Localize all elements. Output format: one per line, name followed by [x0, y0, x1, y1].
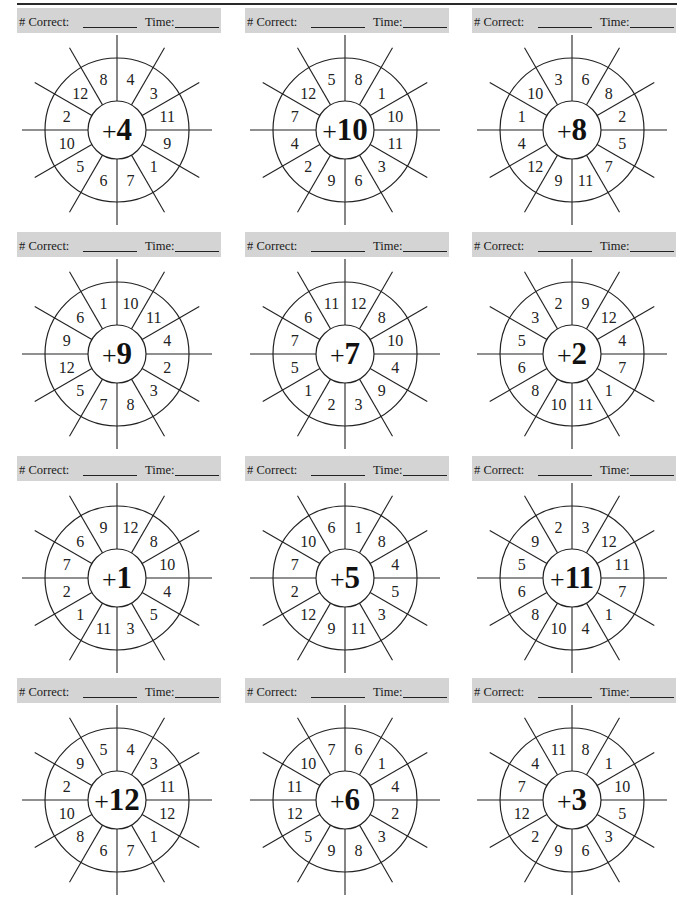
spoke-line	[360, 155, 393, 212]
wheel-number: 5	[150, 606, 158, 623]
addend-label: +11	[550, 560, 594, 595]
correct-blank[interactable]	[311, 251, 365, 252]
wheel-number: 6	[581, 842, 589, 859]
correct-blank[interactable]	[538, 27, 592, 28]
spoke-line	[132, 825, 165, 882]
wheel-number: 4	[163, 583, 171, 600]
correct-blank[interactable]	[538, 697, 592, 698]
wheel-number: 10	[614, 778, 630, 795]
wheel-number: 9	[555, 172, 563, 189]
plus-sign: +	[550, 565, 565, 594]
score-bar: # Correct: Time:	[472, 678, 676, 703]
spoke-line	[360, 496, 393, 553]
wheel-number: 3	[150, 382, 158, 399]
time-blank[interactable]	[403, 27, 447, 28]
wheel-number: 10	[122, 295, 138, 312]
wheel-number: 11	[146, 309, 161, 326]
score-bar: # Correct: Time:	[245, 8, 449, 33]
wheel-number: 12	[287, 805, 303, 822]
wheel-number: 12	[72, 85, 88, 102]
plus-sign: +	[330, 341, 345, 370]
time-blank[interactable]	[630, 697, 674, 698]
time-blank[interactable]	[175, 475, 219, 476]
time-label: Time:	[600, 680, 629, 705]
correct-blank[interactable]	[83, 251, 137, 252]
wheel-number: 4	[391, 556, 399, 573]
correct-label: # Correct:	[247, 10, 297, 35]
time-blank[interactable]	[403, 697, 447, 698]
spoke-line	[132, 48, 165, 105]
time-label: Time:	[600, 458, 629, 483]
wheel-number: 3	[531, 309, 539, 326]
time-blank[interactable]	[403, 251, 447, 252]
correct-blank[interactable]	[83, 27, 137, 28]
time-blank[interactable]	[630, 251, 674, 252]
wheel-number: 7	[63, 556, 71, 573]
addend-number: 1	[117, 560, 133, 595]
wheel-number: 6	[100, 842, 108, 859]
spoke-line	[525, 825, 558, 882]
time-blank[interactable]	[630, 475, 674, 476]
wheel-number: 9	[378, 382, 386, 399]
wheel-number: 9	[328, 172, 336, 189]
wheel-number: 9	[328, 842, 336, 859]
correct-blank[interactable]	[83, 475, 137, 476]
addend-number: 9	[117, 336, 133, 371]
wheel-number: 10	[59, 805, 75, 822]
time-blank[interactable]	[403, 475, 447, 476]
wheel-number: 3	[605, 828, 613, 845]
correct-blank[interactable]	[538, 251, 592, 252]
wheel-number: 4	[163, 332, 171, 349]
time-blank[interactable]	[175, 251, 219, 252]
addend-label: +3	[557, 782, 587, 817]
wheel-number: 11	[160, 778, 175, 795]
wheel-number: 2	[328, 396, 336, 413]
correct-label: # Correct:	[474, 680, 524, 705]
wheel-number: 10	[527, 85, 543, 102]
time-blank[interactable]	[175, 27, 219, 28]
addition-wheel-card-8: # Correct: Time: 184531191227106+5	[245, 456, 475, 678]
score-bar: # Correct: Time:	[17, 678, 221, 703]
correct-label: # Correct:	[247, 234, 297, 259]
time-blank[interactable]	[630, 27, 674, 28]
wheel-number: 6	[328, 519, 336, 536]
spoke-line	[132, 379, 165, 436]
wheel-number: 3	[150, 85, 158, 102]
score-bar: # Correct: Time:	[472, 8, 676, 33]
wheel-number: 6	[354, 741, 362, 758]
correct-blank[interactable]	[311, 697, 365, 698]
correct-blank[interactable]	[311, 475, 365, 476]
addition-wheel: 312117141086592+11	[472, 484, 672, 674]
spoke-line	[360, 718, 393, 775]
score-bar: # Correct: Time:	[245, 678, 449, 703]
wheel-number: 7	[291, 556, 299, 573]
top-rule	[17, 3, 677, 5]
spoke-line	[360, 825, 393, 882]
wheel-number: 3	[378, 158, 386, 175]
wheel-number: 1	[354, 519, 362, 536]
time-blank[interactable]	[175, 697, 219, 698]
addition-wheel-card-7: # Correct: Time: 128104531112769+1	[17, 456, 247, 678]
addend-number: 4	[117, 112, 133, 147]
addition-wheel-card-3: # Correct: Time: 682571191241103+8	[472, 8, 691, 230]
correct-blank[interactable]	[83, 697, 137, 698]
wheel-number: 8	[531, 606, 539, 623]
wheel-number: 2	[63, 778, 71, 795]
addend-label: +2	[557, 336, 587, 371]
addition-wheel-card-11: # Correct: Time: 614238951211107+6	[245, 678, 475, 899]
addend-label: +6	[330, 782, 360, 817]
wheel-number: 4	[126, 741, 134, 758]
wheel-number: 5	[291, 359, 299, 376]
correct-blank[interactable]	[538, 475, 592, 476]
spoke-line	[587, 825, 620, 882]
wheel-number: 6	[518, 359, 526, 376]
wheel-number: 2	[304, 158, 312, 175]
wheel-number: 11	[578, 172, 593, 189]
correct-label: # Correct:	[474, 458, 524, 483]
wheel-number: 1	[150, 828, 158, 845]
addend-number: 3	[572, 782, 588, 817]
wheel-number: 8	[100, 71, 108, 88]
spoke-line	[132, 603, 165, 660]
wheel-number: 5	[391, 583, 399, 600]
correct-blank[interactable]	[311, 27, 365, 28]
